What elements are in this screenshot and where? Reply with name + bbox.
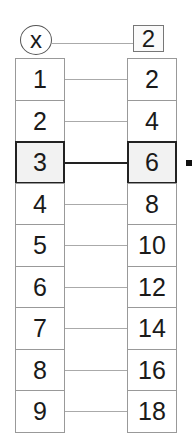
mapping-line: [65, 245, 127, 246]
mapping-line: [65, 328, 127, 329]
input-cell: 7: [15, 307, 65, 350]
output-cell: 2: [127, 58, 177, 101]
row-marker-icon: [186, 160, 192, 166]
mapping-line: [65, 287, 127, 288]
output-cell: 16: [127, 349, 177, 392]
input-cell: 6: [15, 266, 65, 309]
input-cell: 3: [15, 141, 65, 184]
header-connector-line: [52, 43, 133, 44]
mapping-line: [65, 411, 127, 412]
output-cell: 8: [127, 183, 177, 226]
mapping-line: [65, 162, 127, 164]
mapping-line: [65, 121, 127, 122]
input-cell: 8: [15, 349, 65, 392]
mapping-line: [65, 204, 127, 205]
mapping-line: [65, 370, 127, 371]
variable-x-circle: x: [20, 25, 52, 55]
input-cell: 9: [15, 390, 65, 433]
output-cell: 14: [127, 307, 177, 350]
input-cell: 4: [15, 183, 65, 226]
output-cell: 10: [127, 224, 177, 267]
output-cell: 4: [127, 100, 177, 143]
multiplier-box: 2: [133, 25, 164, 52]
output-cell: 18: [127, 390, 177, 433]
output-cell: 12: [127, 266, 177, 309]
input-cell: 5: [15, 224, 65, 267]
input-cell: 1: [15, 58, 65, 101]
output-cell: 6: [127, 141, 177, 184]
input-cell: 2: [15, 100, 65, 143]
mapping-line: [65, 79, 127, 80]
